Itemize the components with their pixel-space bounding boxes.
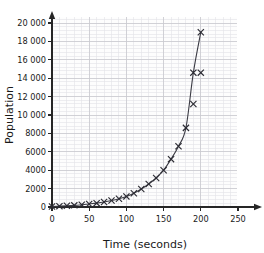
y-tick-label: 6000 bbox=[25, 147, 46, 157]
y-axis-arrow bbox=[49, 11, 55, 19]
x-tick-label: 50 bbox=[84, 214, 94, 224]
x-axis-arrow bbox=[254, 204, 262, 210]
y-tick-label: 2000 bbox=[25, 184, 46, 194]
x-tick-labels: 050100150200250 bbox=[49, 214, 245, 224]
y-tick-label: 18 000 bbox=[17, 36, 46, 46]
y-axis-title: Population bbox=[3, 86, 16, 144]
plot-background bbox=[52, 17, 237, 207]
y-tick-label: 14 000 bbox=[17, 73, 46, 83]
y-tick-label: 16 000 bbox=[17, 55, 46, 65]
chart-canvas: 050100150200250 0200040006000800010 0001… bbox=[0, 0, 264, 253]
y-tick-label: 0 bbox=[41, 202, 46, 212]
x-tick-label: 100 bbox=[119, 214, 135, 224]
x-tick-label: 0 bbox=[49, 214, 54, 224]
y-tick-labels: 0200040006000800010 00012 00014 00016 00… bbox=[17, 18, 46, 212]
y-tick-label: 10 000 bbox=[17, 110, 46, 120]
minor-gridlines bbox=[52, 17, 237, 207]
x-tick-label: 200 bbox=[193, 214, 209, 224]
x-axis-title: Time (seconds) bbox=[102, 238, 187, 251]
x-tick-label: 150 bbox=[156, 214, 172, 224]
y-tick-label: 8000 bbox=[25, 128, 46, 138]
y-tick-label: 12 000 bbox=[17, 92, 46, 102]
x-tick-label: 250 bbox=[230, 214, 246, 224]
population-growth-chart: 050100150200250 0200040006000800010 0001… bbox=[0, 0, 264, 253]
y-tick-label: 20 000 bbox=[17, 18, 46, 28]
y-tick-label: 4000 bbox=[25, 165, 46, 175]
